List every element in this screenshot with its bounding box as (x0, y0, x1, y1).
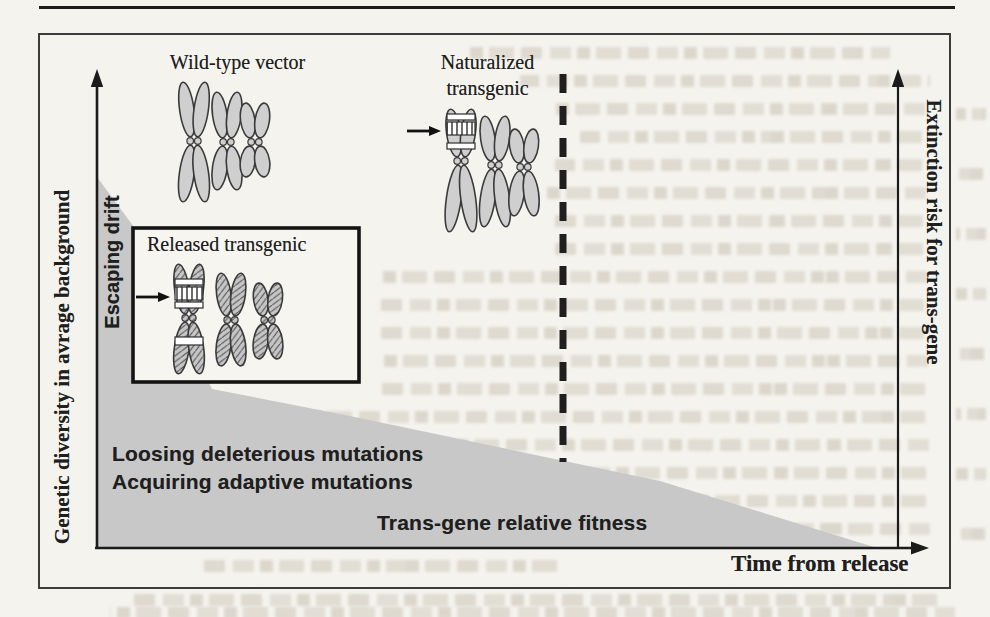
extinction-axis-arrow-icon (892, 69, 904, 87)
naturalized-transgenic-chromosomes (442, 108, 542, 232)
escaping-drift-label: Escaping drift (101, 187, 123, 337)
x-axis-label: Time from release (731, 551, 909, 577)
transgene-fitness-label: Trans-gene relative fitness (377, 511, 647, 535)
naturalized-label-line1: Naturalized (425, 49, 550, 75)
x-axis-arrow-icon (911, 542, 929, 555)
page-top-rule (39, 6, 955, 9)
chromosome (506, 128, 541, 217)
extinction-axis (892, 69, 904, 548)
naturalized-label: Naturalized transgenic (425, 49, 550, 101)
chromosome (238, 102, 272, 178)
loosing-mutations-label: Loosing deleterious mutations (112, 442, 424, 466)
transgene-band (175, 287, 203, 300)
transgene-band (447, 122, 475, 135)
chromosome (442, 108, 480, 232)
transgene-band (447, 143, 475, 149)
scanned-page: Wild-type vector Naturalized transgenic … (0, 0, 990, 617)
chromosome (209, 91, 244, 191)
wild-type-chromosomes (176, 81, 272, 202)
naturalized-label-line2: transgenic (425, 75, 550, 101)
wild-type-label: Wild-type vector (160, 51, 315, 74)
naturalized-arrow-icon (407, 126, 441, 136)
acquiring-mutations-label: Acquiring adaptive mutations (112, 470, 413, 494)
transgene-band (175, 302, 203, 308)
transgene-band (175, 279, 203, 285)
chromosome (476, 115, 513, 228)
y-axis-arrow-icon (91, 69, 103, 87)
transgene-band (447, 114, 475, 120)
extinction-axis-label: Extinction risk for trans-gene (920, 67, 946, 397)
transgene-band (175, 337, 203, 345)
released-label: Released transgenic (147, 233, 306, 256)
y-axis-label: Genetic diversity in avrage background (50, 167, 76, 567)
chromosome (176, 81, 213, 202)
